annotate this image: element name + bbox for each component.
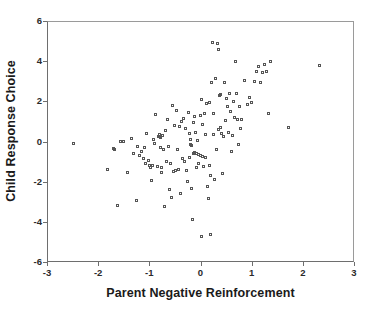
x-axis-tick — [303, 262, 304, 266]
y-axis-tick-label: 4 — [24, 56, 42, 66]
x-axis-tick — [98, 262, 99, 266]
x-axis-title: Parent Negative Reinforcement — [47, 286, 354, 300]
y-axis-tick — [43, 182, 47, 183]
y-axis-tick-label: -4 — [24, 217, 42, 227]
y-axis-tick-label: 2 — [24, 96, 42, 106]
x-axis-tick-label: -2 — [88, 267, 108, 278]
scatter-plot-figure: Child Response Choice -6-4-20246-3-2-101… — [0, 0, 371, 311]
x-axis-tick-label: -1 — [139, 267, 159, 278]
x-axis-tick-label: 0 — [191, 267, 211, 278]
x-axis-tick — [354, 262, 355, 266]
y-axis-tick — [43, 101, 47, 102]
x-axis-tick — [252, 262, 253, 266]
y-axis-tick-label: -6 — [24, 257, 42, 267]
x-axis-tick — [47, 262, 48, 266]
x-axis-tick — [201, 262, 202, 266]
y-axis-tick — [43, 142, 47, 143]
x-axis-tick-label: 2 — [293, 267, 313, 278]
y-axis-title: Child Response Choice — [0, 0, 22, 262]
x-axis-tick-label: 1 — [242, 267, 262, 278]
x-axis-tick-label: -3 — [37, 267, 57, 278]
y-axis-tick — [43, 61, 47, 62]
x-axis-tick — [149, 262, 150, 266]
x-axis-tick-label: 3 — [344, 267, 364, 278]
y-axis-tick — [43, 21, 47, 22]
y-axis-tick-label: 6 — [24, 16, 42, 26]
plot-area-frame — [47, 21, 354, 262]
y-axis-tick — [43, 222, 47, 223]
y-axis-tick-label: -2 — [24, 177, 42, 187]
y-axis-tick-label: 0 — [24, 137, 42, 147]
